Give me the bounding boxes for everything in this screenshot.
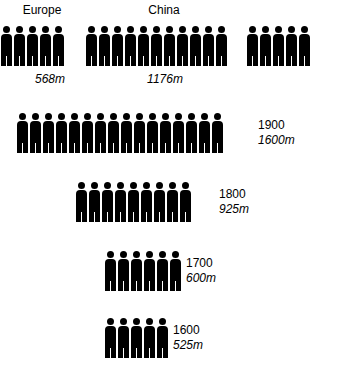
person-icon [285,26,298,66]
person-icon [42,113,55,153]
row-labels-1600: 1600 525m [173,323,203,353]
person-legs [99,53,110,66]
person-head [133,318,140,325]
pictogram-row-1700 [104,251,182,291]
person-head [32,113,39,120]
person-head [127,26,134,33]
person-head [133,251,140,258]
person-icon [55,113,68,153]
person-head [71,113,78,120]
person-icon [298,26,311,66]
person-head [172,251,179,258]
person-head [88,26,95,33]
person-head [114,26,121,33]
person-legs [40,53,51,66]
person-legs [299,53,310,66]
person-head [188,113,195,120]
person-icon [272,26,285,66]
person-legs [144,345,155,358]
person-legs [131,278,142,291]
person-icon [94,113,107,153]
person-head [169,182,176,189]
person-icon [163,26,176,66]
person-legs [180,209,191,222]
person-head [182,182,189,189]
person-legs [56,140,67,153]
person-legs [186,140,197,153]
person-legs [53,53,64,66]
person-icon [153,182,166,222]
person-head [156,182,163,189]
person-legs [273,53,284,66]
person-icon [198,113,211,153]
person-icon [75,182,88,222]
person-icon [117,251,130,291]
person-icon [120,113,133,153]
person-legs [144,278,155,291]
person-head [288,26,295,33]
person-head [107,318,114,325]
person-legs [125,53,136,66]
person-legs [82,140,93,153]
person-head [262,26,269,33]
person-legs [69,140,80,153]
person-legs [115,209,126,222]
year-label-1600: 1600 [173,323,203,338]
person-icon [81,113,94,153]
person-legs [128,209,139,222]
person-icon [156,251,169,291]
person-head [301,26,308,33]
person-head [149,113,156,120]
person-icon [146,113,159,153]
person-head [153,26,160,33]
person-icon [104,318,117,358]
person-head [19,113,26,120]
person-icon [156,318,169,358]
person-head [214,113,221,120]
person-icon [104,251,117,291]
person-legs [108,140,119,153]
person-head [120,318,127,325]
person-legs [147,140,158,153]
person-head [275,26,282,33]
person-head [107,251,114,258]
row-labels-1900: 1900 1600m [258,118,295,148]
person-icon [202,26,215,66]
value-label-1700: 600m [186,271,216,286]
person-head [123,113,130,120]
person-icon [13,26,26,66]
person-icon [143,251,156,291]
pictogram-chart: Europe China 568m 1176m 1900 1600m 1800 … [0,0,346,367]
person-icon [211,113,224,153]
person-head [91,182,98,189]
value-label-china: 1176m [147,72,183,86]
person-legs [89,209,100,222]
person-icon [52,26,65,66]
person-legs [216,53,227,66]
region-label-china: China [148,3,179,17]
person-icon [117,318,130,358]
person-legs [177,53,188,66]
person-icon [169,251,182,291]
person-icon [215,26,228,66]
person-head [205,26,212,33]
person-icon [130,251,143,291]
value-label-1800: 925m [219,202,249,217]
person-icon [246,26,259,66]
person-legs [151,53,162,66]
pictogram-row-1600 [104,318,169,358]
person-legs [1,53,12,66]
person-icon [29,113,42,153]
person-legs [190,53,201,66]
person-head [166,26,173,33]
person-legs [212,140,223,153]
value-label-1900: 1600m [258,133,295,148]
person-legs [160,140,171,153]
person-legs [30,140,41,153]
person-icon [39,26,52,66]
person-head [45,113,52,120]
pictogram-group-unlabeled [246,26,311,66]
person-legs [131,345,142,358]
person-icon [143,318,156,358]
person-head [104,182,111,189]
